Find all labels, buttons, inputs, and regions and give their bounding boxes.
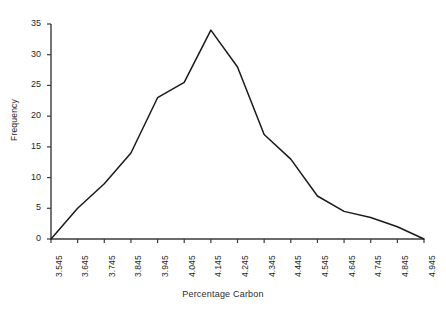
frequency-line-series xyxy=(51,30,424,239)
axes-group xyxy=(47,24,424,243)
frequency-polygon-chart: Frequency 05101520253035 3.5453.6453.745… xyxy=(0,0,446,313)
chart-plot-area xyxy=(0,0,446,313)
x-axis-title: Percentage Carbon xyxy=(0,289,446,299)
